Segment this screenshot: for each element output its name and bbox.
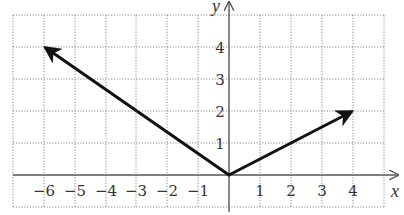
y-tick-label: 1: [215, 135, 225, 153]
x-tick-label: −4: [95, 182, 117, 200]
v-shaped-graph: x y −6 −5 −4 −3 −2 −1 1 2 3 4 1 2 3 4: [0, 0, 404, 215]
x-tick-label: 2: [286, 182, 296, 200]
x-tick-label: 4: [348, 182, 358, 200]
x-tick-label: 3: [317, 182, 327, 200]
x-tick-label: −3: [125, 182, 147, 200]
x-tick-label: −5: [64, 182, 86, 200]
y-tick-label: 4: [215, 39, 225, 57]
x-tick-label: −1: [187, 182, 209, 200]
y-tick-label: 2: [215, 103, 225, 121]
x-tick-labels: −6 −5 −4 −3 −2 −1 1 2 3 4: [33, 182, 358, 200]
x-tick-label: −2: [156, 182, 178, 200]
grid: [13, 15, 384, 207]
y-tick-labels: 1 2 3 4: [215, 39, 225, 153]
x-tick-label: −6: [33, 182, 55, 200]
x-axis-label: x: [390, 181, 399, 201]
y-tick-label: 3: [215, 71, 225, 89]
x-tick-label: 1: [255, 182, 265, 200]
y-axis-label: y: [210, 0, 220, 16]
